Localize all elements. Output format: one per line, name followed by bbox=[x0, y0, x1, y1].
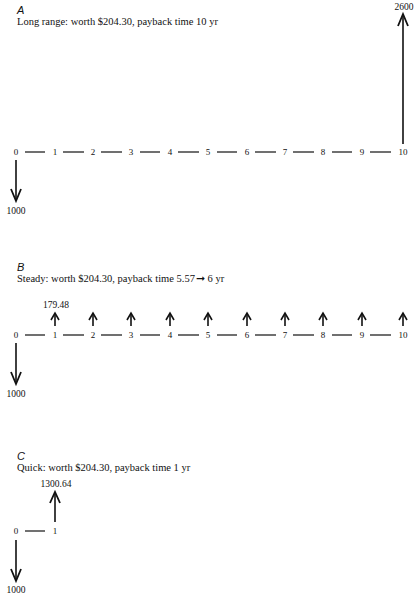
tick-label: 1 bbox=[53, 526, 58, 536]
tick-label: 0 bbox=[14, 526, 19, 536]
inflow-arrow-icon bbox=[50, 492, 60, 522]
outflow-value: 1000 bbox=[7, 585, 26, 595]
inflow-value: 1300.64 bbox=[41, 479, 72, 489]
panel-c-timeline bbox=[0, 0, 419, 598]
outflow-arrow-icon bbox=[11, 540, 21, 581]
